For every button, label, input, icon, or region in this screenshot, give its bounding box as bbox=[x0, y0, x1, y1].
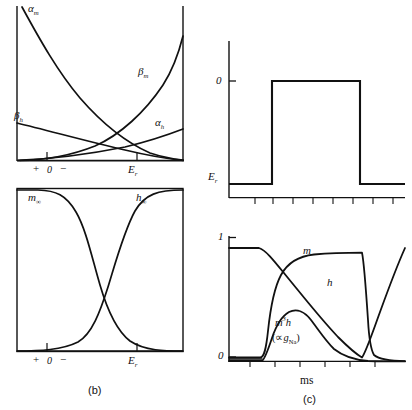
panel-c-bottom-axes bbox=[229, 236, 405, 367]
panel-a-axis-er: Er bbox=[128, 164, 137, 178]
label-gna: (∝gNa) bbox=[272, 333, 300, 346]
panel-b-frame bbox=[17, 189, 183, 352]
curve-h bbox=[229, 248, 405, 358]
panel-c-top-x-ticks bbox=[255, 198, 393, 204]
label-m-inf: m∞ bbox=[28, 192, 41, 206]
panel-b-axis-minus: − bbox=[60, 354, 66, 365]
label-alpha-m: αm bbox=[28, 3, 39, 17]
panel-c-caption: (c) bbox=[303, 394, 316, 405]
curve-m bbox=[229, 253, 405, 362]
label-m3h: m3h bbox=[275, 316, 291, 328]
label-beta-m: βm bbox=[138, 66, 148, 80]
panel-a-curves bbox=[17, 7, 183, 161]
panel-a-axis-plus: + bbox=[33, 163, 39, 174]
panel-b-axes bbox=[17, 189, 183, 353]
figure-canvas bbox=[0, 0, 412, 410]
label-m-curve: m bbox=[303, 245, 311, 256]
figure-root: αm βm βh αh + 0 − Er m∞ h∞ + 0 − Er (b) … bbox=[0, 0, 412, 410]
panel-a-axis-zero: 0 bbox=[47, 165, 52, 175]
label-h-curve: h bbox=[327, 277, 333, 288]
panel-c-bottom-label-one: 1 bbox=[218, 231, 224, 242]
label-beta-h: βh bbox=[14, 110, 23, 124]
panel-c-bottom-label-zero: 0 bbox=[218, 350, 224, 361]
panel-a-axis-minus: − bbox=[60, 163, 66, 174]
panel-c-top-label-zero: 0 bbox=[216, 75, 222, 86]
label-h-inf: h∞ bbox=[136, 192, 146, 206]
curve-m-inf bbox=[17, 190, 183, 351]
panel-b-axis-er: Er bbox=[128, 355, 137, 369]
curve-h-inf bbox=[17, 190, 183, 351]
panel-c-top-label-er: Er bbox=[208, 171, 217, 185]
panel-c-x-label: ms bbox=[300, 375, 313, 387]
panel-b-axis-zero: 0 bbox=[47, 356, 52, 366]
curve-beta-m bbox=[20, 36, 183, 161]
panel-b-curves bbox=[17, 190, 183, 351]
panel-c-bottom-x-ticks bbox=[250, 361, 375, 367]
panel-b-axis-plus: + bbox=[33, 354, 39, 365]
panel-b-caption: (b) bbox=[88, 385, 101, 396]
panel-c-bottom-curves bbox=[229, 248, 405, 361]
curve-clamp-step bbox=[229, 81, 405, 184]
label-alpha-h: αh bbox=[155, 117, 164, 131]
panel-c-top-axes bbox=[229, 41, 405, 204]
